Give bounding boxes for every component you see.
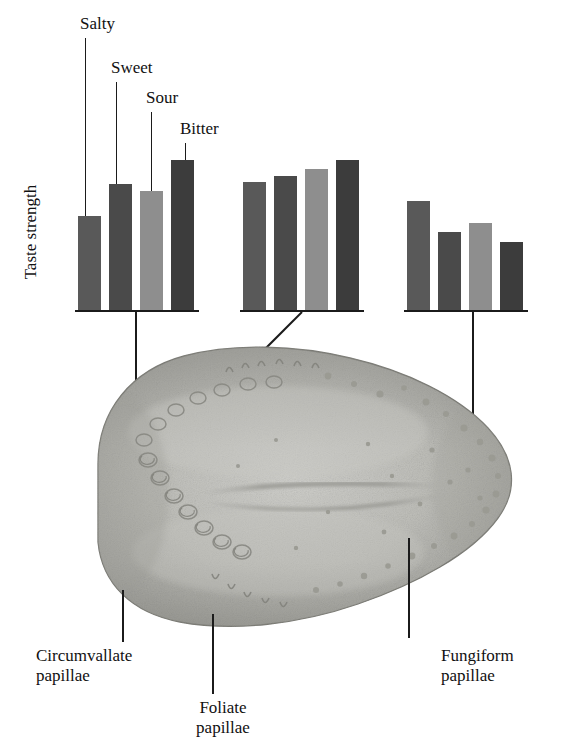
bar-fungiform-bitter	[500, 242, 523, 310]
annotation-fungiform-line2: papillae	[441, 666, 570, 686]
annotation-fungiform: Fungiform papillae	[441, 646, 570, 686]
bar-fungiform-sweet	[438, 232, 461, 310]
annotation-fungiform-line1: Fungiform	[441, 646, 570, 666]
baseline-circumvallate	[75, 310, 199, 312]
legend-leader-salty	[85, 38, 86, 238]
legend-label-sweet: Sweet	[111, 58, 153, 77]
bar-fungiform-sour	[469, 223, 492, 310]
annotation-leader-foliate	[212, 614, 214, 694]
annotation-leader-circumvallate	[122, 590, 124, 642]
bar-foliate-bitter	[336, 160, 359, 310]
legend-label-salty: Salty	[80, 14, 115, 33]
taste-strength-figure: Taste strength Salty Sweet Sour Bitter	[0, 0, 570, 746]
annotation-foliate-line2: papillae	[168, 718, 278, 738]
baseline-fungiform	[404, 310, 528, 312]
bar-foliate-salty	[243, 182, 266, 310]
baseline-foliate	[240, 310, 364, 312]
bar-circumvallate-bitter	[171, 160, 194, 310]
bar-circumvallate-salty	[78, 216, 101, 310]
annotation-circumvallate-line1: Circumvallate	[36, 646, 211, 666]
legend-label-sour: Sour	[146, 88, 178, 107]
annotation-circumvallate-line2: papillae	[36, 666, 211, 686]
bar-foliate-sweet	[274, 176, 297, 310]
bar-circumvallate-sweet	[109, 184, 132, 310]
tongue-illustration	[28, 336, 542, 658]
annotation-leader-fungiform	[408, 538, 410, 638]
human-tongue-dorsum-drawing	[28, 336, 542, 658]
y-axis-title: Taste strength	[21, 157, 41, 307]
annotation-foliate-line1: Foliate	[168, 698, 278, 718]
bar-foliate-sour	[305, 169, 328, 310]
annotation-foliate: Foliate papillae	[168, 698, 278, 738]
annotation-circumvallate: Circumvallate papillae	[36, 646, 211, 686]
bar-fungiform-salty	[407, 201, 430, 310]
legend-label-bitter: Bitter	[180, 119, 219, 138]
bar-circumvallate-sour	[140, 191, 163, 310]
